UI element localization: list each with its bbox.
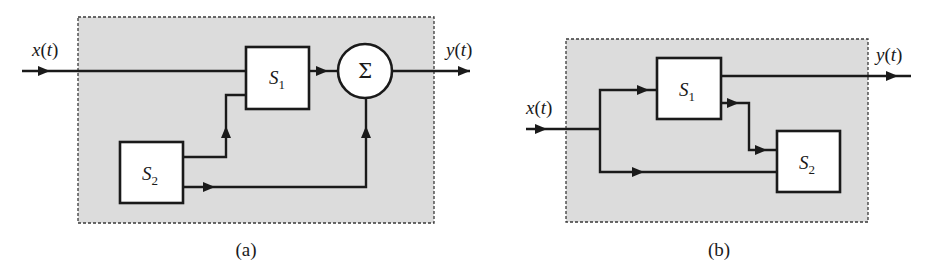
diagram-a: x(t) S1 Σ y(t) S2 (22, 17, 472, 261)
sigma-icon: Σ (358, 59, 372, 83)
input-label-a: x(t) (31, 39, 58, 61)
block-s1-b: S1 (657, 58, 721, 119)
arrow-icon (535, 124, 547, 134)
block-s1-a: S1 (246, 47, 309, 109)
output-label-b: y(t) (874, 44, 902, 66)
summing-junction-a: Σ (338, 44, 392, 98)
block-s2-b: S2 (777, 131, 840, 192)
input-label-b: x(t) (525, 97, 552, 119)
arrow-icon (38, 66, 50, 76)
caption-a: (a) (235, 239, 256, 261)
block-diagrams: x(t) S1 Σ y(t) S2 (0, 0, 932, 276)
arrow-icon (458, 66, 470, 76)
arrow-icon (886, 71, 898, 81)
block-s2-a: S2 (120, 142, 183, 203)
caption-b: (b) (708, 239, 730, 261)
output-label-a: y(t) (444, 39, 472, 61)
diagram-b: x(t) S1 y(t) S2 (525, 39, 911, 261)
